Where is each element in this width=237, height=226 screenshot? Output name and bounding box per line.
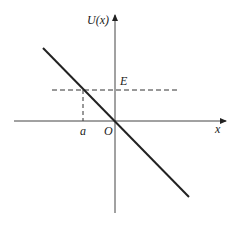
potential-energy-diagram: U(x) E a O x	[0, 0, 237, 226]
origin-label: O	[104, 124, 113, 138]
potential-curve	[43, 48, 189, 197]
x-axis-label: x	[214, 122, 221, 136]
energy-label: E	[119, 74, 128, 88]
y-axis-label: U(x)	[87, 13, 109, 27]
turning-point-label: a	[80, 124, 86, 138]
